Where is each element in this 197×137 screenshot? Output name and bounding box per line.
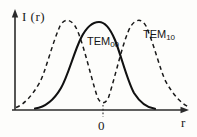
curve-label-tem00: TEM00 — [87, 36, 119, 47]
curve-label-tem10-base: TEM — [143, 28, 166, 40]
origin-axis-label: 0 — [98, 119, 105, 132]
curve-label-tem10-subscript: 10 — [166, 33, 175, 42]
curve-label-tem00-base: TEM — [87, 35, 110, 47]
curve-label-tem00-subscript: 00 — [110, 40, 119, 49]
y-axis-label: I (r) — [22, 10, 45, 23]
y-axis — [12, 9, 18, 110]
x-axis-label: r — [181, 116, 185, 129]
curve-label-tem10: TEM10 — [143, 29, 175, 40]
intensity-profile-figure: I (r) r 0 TEM00 TEM10 — [0, 0, 197, 137]
